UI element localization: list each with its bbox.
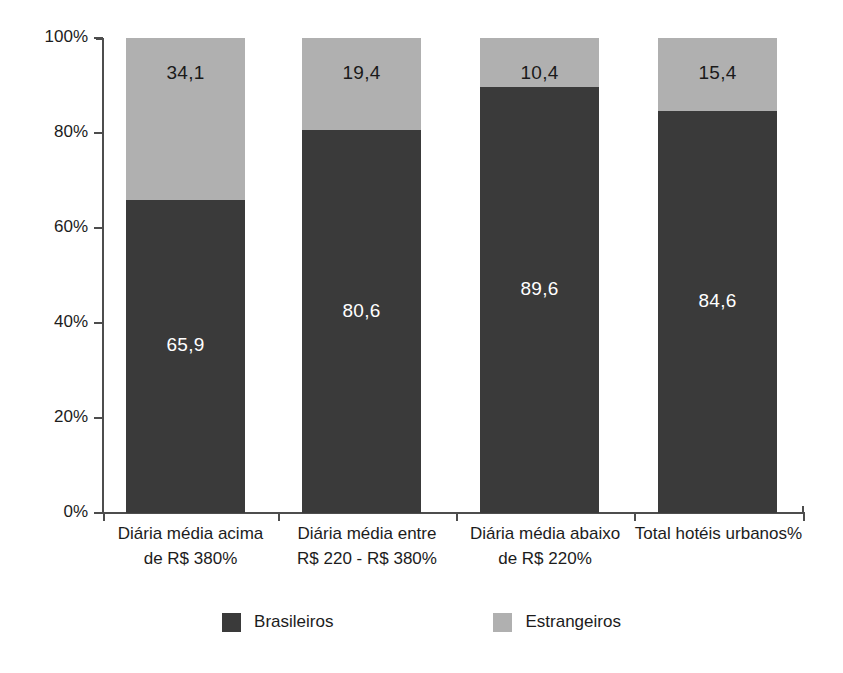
- y-axis-tick: [94, 417, 103, 419]
- legend-swatch-icon: [222, 613, 241, 632]
- category-label-line1: Total hotéis urbanos%: [635, 524, 802, 543]
- y-axis-tick: [94, 512, 103, 514]
- x-axis-tick: [278, 512, 280, 521]
- bar-segment-value-label: 15,4: [698, 62, 736, 84]
- x-axis-category-label: Total hotéis urbanos%: [624, 521, 814, 546]
- bar-segment-estrangeiros[interactable]: 19,4: [302, 38, 421, 130]
- bar-segment-brasileiros[interactable]: 80,6: [302, 130, 421, 513]
- x-axis-tick: [456, 512, 458, 521]
- x-axis-category-label: Diária média entreR$ 220 - R$ 380%: [272, 521, 462, 571]
- bar-segment-value-label: 89,6: [520, 278, 558, 300]
- legend-item[interactable]: Brasileiros: [222, 612, 333, 632]
- category-label-line1: Diária média entre: [298, 524, 437, 543]
- bar-column[interactable]: 34,165,9: [126, 38, 245, 513]
- x-axis-tick: [634, 512, 636, 521]
- category-label-line1: Diária média acima: [118, 524, 264, 543]
- bar-column[interactable]: 10,489,6: [480, 38, 599, 513]
- y-axis-tick-label-text: 80%: [54, 122, 88, 142]
- bar-segment-brasileiros[interactable]: 84,6: [658, 111, 777, 513]
- category-label-line2: de R$ 220%: [450, 546, 640, 571]
- bar-segment-estrangeiros[interactable]: 10,4: [480, 38, 599, 87]
- x-axis-category-label: Diária média abaixode R$ 220%: [450, 521, 640, 571]
- y-axis-tick-label-text: 60%: [54, 217, 88, 237]
- chart-legend: BrasileirosEstrangeiros: [0, 612, 843, 632]
- category-label-line2: de R$ 380%: [96, 546, 286, 571]
- bar-segment-brasileiros[interactable]: 89,6: [480, 87, 599, 513]
- legend-label: Estrangeiros: [525, 612, 620, 632]
- bar-column[interactable]: 19,480,6: [302, 38, 421, 513]
- legend-item[interactable]: Estrangeiros: [493, 612, 620, 632]
- bar-segment-value-label: 10,4: [520, 62, 558, 84]
- bar-column[interactable]: 15,484,6: [658, 38, 777, 513]
- y-axis-tick: [94, 132, 103, 134]
- category-label-line1: Diária média abaixo: [470, 524, 620, 543]
- bar-segment-estrangeiros[interactable]: 15,4: [658, 38, 777, 111]
- bar-segment-value-label: 19,4: [342, 62, 380, 84]
- y-axis-tick: [94, 37, 103, 39]
- bar-segment-value-label: 80,6: [342, 300, 380, 322]
- x-axis-tick: [103, 512, 105, 521]
- bar-segment-brasileiros[interactable]: 65,9: [126, 200, 245, 513]
- x-axis-category-label: Diária média acimade R$ 380%: [96, 521, 286, 571]
- y-axis-tick-label-text: 20%: [54, 407, 88, 427]
- y-axis-tick-label-text: 40%: [54, 312, 88, 332]
- y-axis-tick-label-text: 100%: [45, 27, 88, 47]
- legend-swatch-icon: [493, 613, 512, 632]
- bar-segment-value-label: 34,1: [166, 62, 204, 84]
- y-axis-tick: [94, 322, 103, 324]
- y-axis-line: [102, 38, 104, 514]
- bar-segment-value-label: 65,9: [166, 334, 204, 356]
- stacked-bar-chart: 100%80%60%40%20%0% 34,165,919,480,610,48…: [0, 0, 843, 673]
- legend-label: Brasileiros: [254, 612, 333, 632]
- bar-segment-value-label: 84,6: [698, 290, 736, 312]
- y-axis-tick: [94, 227, 103, 229]
- x-axis-tick: [803, 512, 805, 521]
- category-label-line2: R$ 220 - R$ 380%: [272, 546, 462, 571]
- y-axis-tick-label-text: 0%: [63, 502, 88, 522]
- bar-segment-estrangeiros[interactable]: 34,1: [126, 38, 245, 200]
